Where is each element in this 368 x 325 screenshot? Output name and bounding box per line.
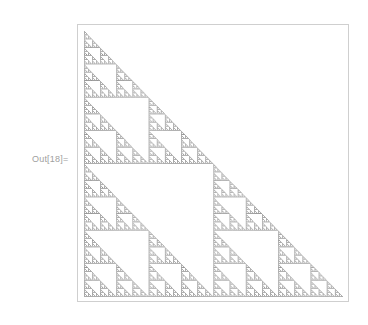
output-graphic-frame[interactable] xyxy=(77,24,349,302)
sierpinski-triangle-graphic xyxy=(84,31,343,297)
output-label: Out[18]= xyxy=(32,154,68,164)
